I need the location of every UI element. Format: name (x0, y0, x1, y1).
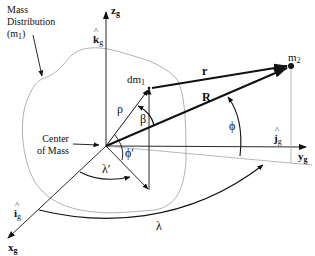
center-of-mass-label: Center of Mass (37, 133, 69, 157)
mass-distribution-line2: Distribution (7, 16, 55, 28)
x-axis (8, 146, 106, 238)
phi-prime-label: ϕ′ (125, 147, 134, 159)
R-vector-label: R (202, 91, 211, 103)
lambda-label: λ (156, 220, 162, 232)
m2-point (288, 63, 294, 69)
center-of-mass-pointer (73, 144, 99, 145)
j-hat-label: jg (274, 132, 282, 144)
x-axis-label: xg (8, 241, 18, 253)
lambda-prime-label: λ′ (102, 163, 110, 175)
y-axis (106, 146, 306, 147)
mass-distribution-outline (22, 48, 186, 213)
mass-distribution-pointer (33, 35, 42, 76)
y-axis-label: yg (298, 150, 308, 162)
mass-distribution-label: Mass Distribution (m1) (7, 4, 55, 40)
beta-label: β (140, 113, 146, 125)
m2-label: m2 (288, 51, 301, 63)
i-hat-label: ig (14, 207, 21, 219)
equatorial-projection-line (106, 146, 312, 165)
dm1-label: dm1 (127, 73, 145, 85)
mass-distribution-line3: (m1) (7, 28, 55, 40)
mass-distribution-line1: Mass (7, 4, 55, 16)
k-hat-label: kg (93, 33, 103, 45)
center-of-mass-line2: of Mass (37, 145, 69, 157)
center-of-mass-line1: Center (37, 133, 69, 145)
dm1-point (148, 87, 151, 90)
phi-label: ϕ (229, 120, 235, 132)
r-vector-label: r (202, 65, 207, 77)
z-axis-label: zg (111, 4, 120, 16)
rho-label: ρ (117, 103, 123, 115)
